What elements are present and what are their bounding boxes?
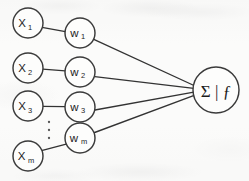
weight-node-wm-base: w: [69, 132, 79, 144]
vertical-ellipsis: [48, 121, 50, 139]
input-node-x1[interactable]: X 1: [13, 8, 43, 38]
input-node-x1-subscript: 1: [28, 23, 32, 32]
input-node-xm-subscript: m: [28, 156, 34, 165]
weight-node-w2-subscript: 2: [81, 71, 85, 80]
edge-x1-w1: [42, 27, 65, 31]
weight-node-w3[interactable]: w 3: [65, 92, 95, 122]
input-node-xm[interactable]: X m: [13, 141, 43, 171]
input-node-xm-base: X: [18, 150, 26, 162]
weight-node-w1[interactable]: w 1: [65, 18, 95, 48]
input-node-x3[interactable]: X 3: [13, 91, 43, 121]
input-node-x2-subscript: 2: [28, 68, 32, 77]
neuron-diagram-canvas: X 1 X 2 X 3 X m w 1: [0, 0, 249, 181]
input-node-x3-base: X: [18, 100, 26, 112]
weight-node-w3-subscript: 3: [81, 106, 85, 115]
vertical-ellipsis-dot: [48, 137, 50, 139]
weight-node-wm-subscript: m: [81, 137, 87, 146]
vertical-ellipsis-dot: [48, 129, 50, 131]
weight-node-w2-base: w: [69, 66, 79, 78]
vertical-ellipsis-dot: [48, 121, 50, 123]
edge-x2-w2: [43, 69, 65, 71]
input-node-x3-subscript: 3: [28, 106, 32, 115]
input-node-group: X 1 X 2 X 3 X m: [13, 8, 43, 171]
weight-node-w2[interactable]: w 2: [65, 57, 95, 87]
weight-node-group: w 1 w 2 w 3 w m: [65, 18, 95, 153]
weight-to-output-edges: [93, 39, 194, 133]
output-node-summation[interactable]: Σ | ƒ: [193, 67, 239, 113]
input-to-weight-edges: [42, 27, 68, 150]
input-node-x2-base: X: [18, 62, 26, 74]
weight-node-w1-base: w: [69, 27, 79, 39]
input-node-x1-base: X: [18, 17, 26, 29]
neuron-diagram-svg: X 1 X 2 X 3 X m w 1: [0, 0, 249, 181]
weight-node-wm[interactable]: w m: [65, 123, 95, 153]
weight-node-w3-base: w: [69, 101, 79, 113]
input-node-x2[interactable]: X 2: [13, 53, 43, 83]
edge-xm-wm: [42, 144, 68, 151]
output-node-label: Σ | ƒ: [201, 82, 231, 101]
weight-node-w1-subscript: 1: [81, 32, 85, 41]
